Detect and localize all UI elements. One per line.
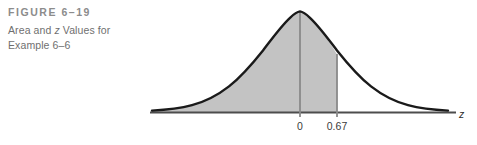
figure-container: FIGURE 6–19 Area and z Values for Exampl… <box>0 0 477 145</box>
shaded-area-region <box>152 12 337 112</box>
x-tick-label-cutoff: 0.67 <box>327 120 347 132</box>
x-axis-label-z: z <box>459 108 464 120</box>
normal-distribution-plot <box>0 0 477 145</box>
x-tick-label-zero: 0 <box>297 120 303 132</box>
